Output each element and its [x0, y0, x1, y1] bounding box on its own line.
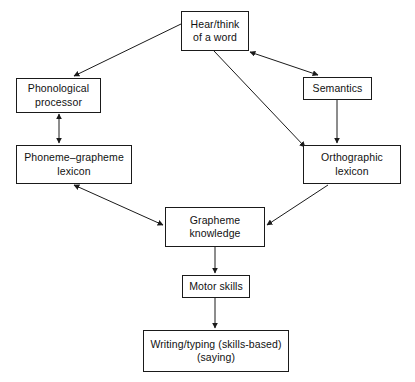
node-label: Writing/typing (skills-based) (saying) [147, 338, 284, 365]
node-label: Phonological processor [25, 82, 92, 109]
node-label: Grapheme knowledge [186, 214, 243, 241]
node-phonological-processor[interactable]: Phonological processor [16, 78, 101, 113]
node-writing-typing[interactable]: Writing/typing (skills-based) (saying) [143, 330, 289, 372]
edge-orthographic-to-grapheme-knowledge [267, 185, 328, 225]
node-orthographic-lexicon[interactable]: Orthographic lexicon [303, 145, 401, 184]
edge-hear-to-phonological [74, 24, 181, 76]
node-semantics[interactable]: Semantics [303, 77, 372, 100]
node-phoneme-grapheme-lexicon[interactable]: Phoneme–grapheme lexicon [16, 145, 132, 184]
node-motor-skills[interactable]: Motor skills [182, 275, 250, 298]
node-label: Hear/think of a word [188, 18, 243, 45]
node-hear-think-of-a-word[interactable]: Hear/think of a word [181, 11, 249, 51]
node-label: Orthographic lexicon [318, 151, 386, 178]
diagram-edges [0, 0, 415, 382]
node-grapheme-knowledge[interactable]: Grapheme knowledge [165, 207, 265, 247]
diagram-canvas: Hear/think of a word Phonological proces… [0, 0, 415, 382]
node-label: Phoneme–grapheme lexicon [21, 151, 127, 178]
node-label: Semantics [310, 82, 366, 96]
edge-hear-to-orthographic [214, 51, 305, 147]
edge-phoneme-grapheme-grapheme-knowledge [74, 185, 163, 225]
node-label: Motor skills [186, 280, 246, 294]
edge-hear-semantics [250, 52, 318, 75]
